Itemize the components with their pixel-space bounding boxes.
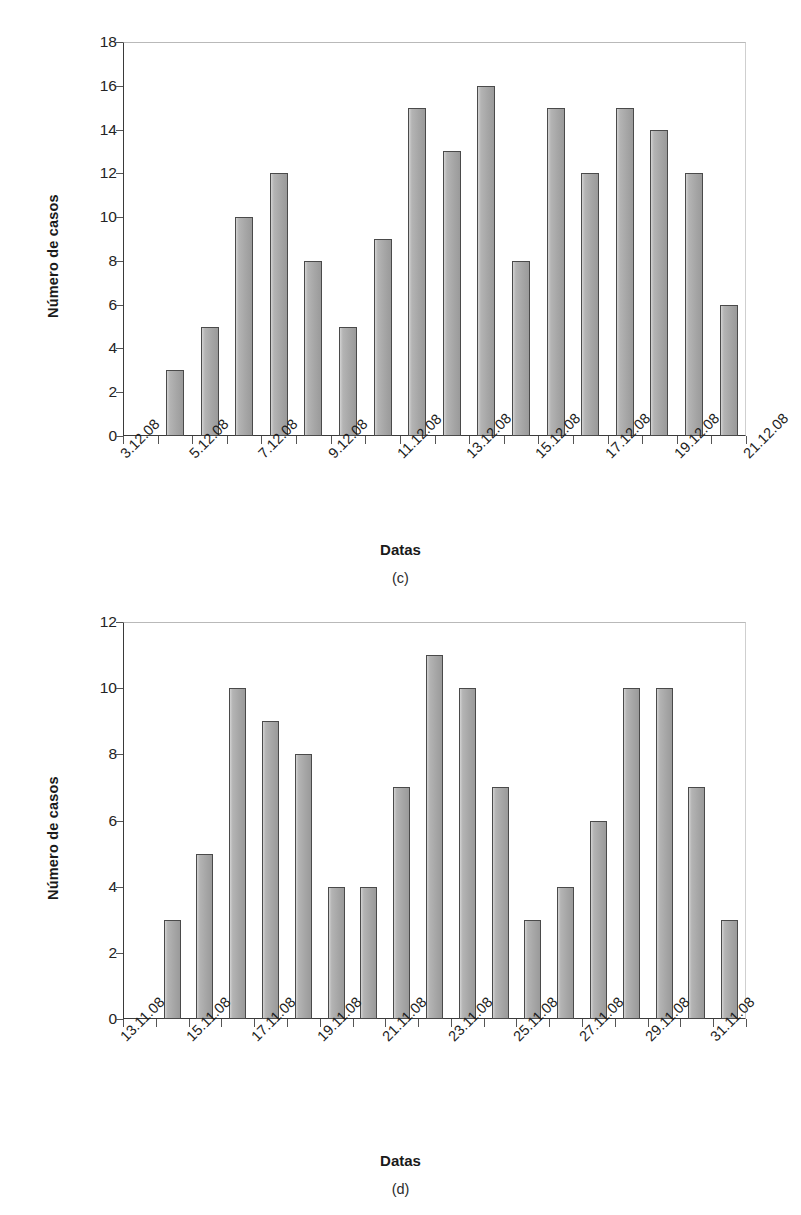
x-axis-title-d: Datas	[0, 1152, 801, 1169]
figure-panel-d: Número de casos 024681012 Datas (d) 13.1…	[0, 600, 801, 1215]
bar	[393, 787, 410, 1019]
y-tick-label: 10	[100, 208, 117, 226]
y-tick-label: 12	[100, 613, 117, 631]
bar	[408, 108, 426, 436]
y-tick-mark	[116, 821, 123, 822]
x-axis-title-c: Datas	[0, 541, 801, 558]
x-tick-mark	[418, 1019, 419, 1027]
x-tick-mark	[680, 1019, 681, 1027]
y-tick-mark	[116, 392, 123, 393]
x-tick-mark	[746, 1019, 747, 1027]
y-tick-mark	[116, 305, 123, 306]
x-tick-mark	[435, 436, 436, 444]
y-tick-mark	[116, 173, 123, 174]
bar	[459, 688, 476, 1019]
x-tick-mark	[615, 1019, 616, 1027]
y-tick-mark	[116, 688, 123, 689]
x-tick-mark	[287, 1019, 288, 1027]
x-tick-mark	[353, 1019, 354, 1027]
bar	[235, 217, 253, 436]
y-tick-mark	[116, 887, 123, 888]
x-tick-mark	[484, 1019, 485, 1027]
x-tick-mark	[504, 436, 505, 444]
bar	[477, 86, 495, 436]
bar	[656, 688, 673, 1019]
bar	[590, 821, 607, 1020]
y-tick-mark	[116, 86, 123, 87]
y-axis-title-d: Número de casos	[45, 776, 61, 900]
y-axis-title-c: Número de casos	[45, 194, 61, 318]
bar	[426, 655, 443, 1019]
bar	[581, 173, 599, 436]
x-tick-mark	[642, 436, 643, 444]
plot-area-c	[123, 42, 746, 436]
x-tick-mark	[573, 436, 574, 444]
x-tick-mark	[156, 1019, 157, 1027]
bar	[688, 787, 705, 1019]
bar	[547, 108, 565, 436]
bar	[229, 688, 246, 1019]
y-tick-mark	[116, 217, 123, 218]
y-tick-mark	[116, 261, 123, 262]
bar	[685, 173, 703, 436]
bar	[295, 754, 312, 1019]
y-tick-labels-c: 024681012141618	[75, 42, 117, 436]
y-tick-label: 12	[100, 164, 117, 182]
y-tick-mark	[116, 436, 123, 437]
y-tick-mark	[116, 42, 123, 43]
x-tick-label: 21.12.08	[740, 410, 791, 461]
y-tick-label: 14	[100, 121, 117, 139]
y-tick-mark	[116, 1019, 123, 1020]
bar	[196, 854, 213, 1019]
bar	[166, 370, 184, 436]
y-tick-mark	[116, 754, 123, 755]
x-tick-mark	[158, 436, 159, 444]
bar	[512, 261, 530, 436]
bar	[492, 787, 509, 1019]
x-tick-mark	[227, 436, 228, 444]
bar	[304, 261, 322, 436]
bar	[443, 151, 461, 436]
bar	[623, 688, 640, 1019]
y-tick-mark	[116, 622, 123, 623]
y-tick-label: 10	[100, 679, 117, 697]
panel-caption-c: (c)	[0, 570, 801, 586]
plot-area-d	[123, 622, 746, 1019]
x-tick-mark	[365, 436, 366, 444]
bar	[262, 721, 279, 1019]
bar	[616, 108, 634, 436]
bar	[360, 887, 377, 1019]
figure-panel-c: Número de casos 024681012141618 Datas (c…	[0, 0, 801, 600]
x-tick-mark	[296, 436, 297, 444]
x-tick-mark	[711, 436, 712, 444]
panel-caption-d: (d)	[0, 1181, 801, 1197]
y-tick-label: 18	[100, 33, 117, 51]
y-tick-label: 16	[100, 77, 117, 95]
bar	[720, 305, 738, 436]
y-tick-mark	[116, 130, 123, 131]
y-tick-mark	[116, 348, 123, 349]
y-tick-mark	[116, 953, 123, 954]
x-tick-mark	[221, 1019, 222, 1027]
bar	[557, 887, 574, 1019]
y-tick-labels-d: 024681012	[75, 622, 117, 1019]
bar	[328, 887, 345, 1019]
x-tick-mark	[549, 1019, 550, 1027]
bar	[374, 239, 392, 436]
bar	[270, 173, 288, 436]
bar	[650, 130, 668, 436]
